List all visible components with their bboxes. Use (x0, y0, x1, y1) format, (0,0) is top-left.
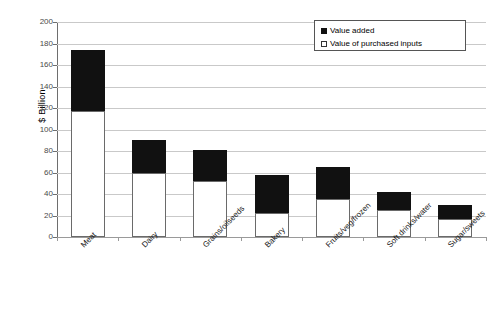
legend-swatch-hollow-square (321, 41, 327, 47)
y-axis-tick-label: 40 (27, 190, 53, 198)
y-axis-tick-label: 200 (27, 18, 53, 26)
bar-segment-value-added (438, 205, 472, 219)
y-axis-tick-label: 180 (27, 40, 53, 48)
gridline (57, 151, 486, 152)
bar-segment-value-added (316, 167, 350, 199)
y-axis-tick-label: 60 (27, 169, 53, 177)
legend-swatch-filled-square (321, 28, 327, 34)
bar-segment-value-added (193, 150, 227, 181)
x-axis-tick-mark (57, 237, 58, 241)
y-axis-tick-label: 20 (27, 212, 53, 220)
bar-segment-value-added (377, 192, 411, 210)
bar-segment-value-added (132, 140, 166, 172)
bar-segment-value-of-purchased-inputs (132, 173, 166, 238)
chart-legend: Value added Value of purchased inputs (314, 20, 466, 51)
legend-label: Value added (330, 26, 374, 35)
x-axis-tick-mark (302, 237, 303, 241)
legend-label: Value of purchased inputs (330, 39, 422, 48)
y-axis-tick-mark (53, 22, 57, 23)
y-axis-tick-label: 100 (27, 126, 53, 134)
bar-segment-value-added (71, 50, 105, 111)
bar-segment-value-of-purchased-inputs (71, 111, 105, 237)
y-axis-tick-labels: 020406080100120140160180200 (25, 22, 53, 237)
x-axis-tick-mark (118, 237, 119, 241)
gridline (57, 65, 486, 66)
x-axis-tick-mark (180, 237, 181, 241)
y-axis-tick-mark (53, 194, 57, 195)
y-axis-tick-label: 140 (27, 83, 53, 91)
x-axis-tick-mark (486, 237, 487, 241)
y-axis-tick-mark (53, 108, 57, 109)
gridline (57, 173, 486, 174)
x-axis-tick-mark (363, 237, 364, 241)
legend-item-value-added: Value added (321, 25, 374, 36)
bar-group (71, 50, 105, 237)
y-axis-tick-mark (53, 216, 57, 217)
x-axis-tick-mark (425, 237, 426, 241)
y-axis-tick-mark (53, 44, 57, 45)
gridline (57, 108, 486, 109)
y-axis-tick-mark (53, 151, 57, 152)
stacked-bar-chart: $ Billion 020406080100120140160180200 Va… (0, 0, 504, 315)
bar-segment-value-added (255, 175, 289, 214)
x-axis-tick-mark (241, 237, 242, 241)
y-axis-tick-label: 80 (27, 147, 53, 155)
y-axis-tick-mark (53, 87, 57, 88)
y-axis-tick-mark (53, 173, 57, 174)
y-axis-tick-mark (53, 65, 57, 66)
gridline (57, 87, 486, 88)
y-axis-tick-label: 0 (27, 233, 53, 241)
gridline (57, 130, 486, 131)
y-axis-tick-label: 120 (27, 104, 53, 112)
legend-item-value-of-purchased-inputs: Value of purchased inputs (321, 38, 422, 49)
y-axis-tick-label: 160 (27, 61, 53, 69)
y-axis-tick-mark (53, 130, 57, 131)
bar-group (132, 140, 166, 237)
